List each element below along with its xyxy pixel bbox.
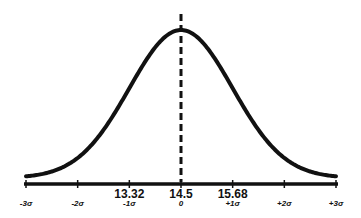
x-axis-labels: -3σ-2σ-1σ0+1σ+2σ+3σ13.3214.515.68 [20, 187, 344, 208]
value-tick-label: 15.68 [218, 187, 248, 201]
value-tick-label: 13.32 [114, 187, 144, 201]
sigma-tick-label: -2σ [71, 199, 84, 208]
sigma-tick-label: +2σ [277, 199, 292, 208]
value-tick-label: 14.5 [169, 187, 193, 201]
sigma-tick-label: -3σ [20, 199, 33, 208]
sigma-tick-label: +3σ [329, 199, 344, 208]
normal-distribution-chart: -3σ-2σ-1σ0+1σ+2σ+3σ13.3214.515.68 [0, 0, 361, 218]
